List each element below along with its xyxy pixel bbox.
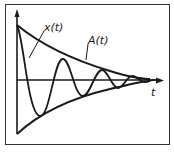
a-t-label: A(t) [87, 34, 108, 47]
damped-oscillation-figure: x(t) A(t) t [0, 0, 174, 152]
y-axis-arrow-icon [15, 9, 20, 17]
x-t-label: x(t) [43, 21, 63, 34]
oscillation-curve [17, 25, 156, 116]
lower-envelope-curve [17, 81, 150, 134]
t-axis-arrow-icon [156, 78, 164, 84]
upper-envelope-curve [17, 25, 150, 79]
t-axis-label: t [151, 86, 156, 99]
